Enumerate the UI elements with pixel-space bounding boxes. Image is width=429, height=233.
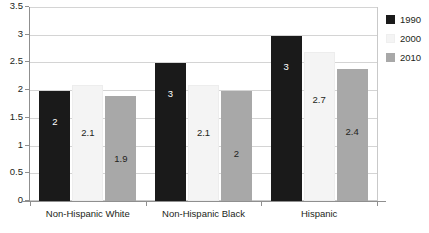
bar-2010-hispanic: 2.4 [337, 69, 368, 201]
bar-value-label: 2.7 [305, 95, 334, 105]
y-axis-tick-label: 1 [0, 140, 23, 150]
legend-label: 2010 [400, 53, 421, 63]
y-axis-tick [25, 34, 29, 35]
x-axis-label-non-hispanic-white: Non-Hispanic White [46, 209, 130, 219]
legend-label: 2000 [400, 34, 421, 44]
bar-2010-non-hispanic-white: 1.9 [105, 96, 136, 201]
bar-value-label: 2.1 [189, 128, 218, 138]
y-axis-tick-label: 0.5 [0, 168, 23, 178]
y-axis-tick [25, 6, 29, 7]
y-axis-tick [25, 61, 29, 62]
x-axis-tick [261, 201, 262, 206]
y-axis-tick-label: 0 [0, 195, 23, 205]
bar-1990-non-hispanic-black: 3 [155, 63, 186, 201]
bar-2000-non-hispanic-black: 2.1 [188, 85, 219, 201]
bar-1990-non-hispanic-white: 2 [39, 91, 70, 201]
y-axis-tick-label: 1.5 [0, 112, 23, 122]
bar-chart: 00.511.522.533.5 22.11.932.1232.72.4 Non… [0, 0, 429, 233]
y-axis-tick-label: 3 [0, 29, 23, 39]
bar-value-label: 3 [155, 89, 186, 99]
bar-value-label: 1.9 [105, 154, 136, 164]
legend-swatch-2010 [386, 53, 395, 62]
bar-value-label: 2.1 [73, 128, 102, 138]
x-axis-tick [377, 201, 378, 206]
y-axis-tick [25, 172, 29, 173]
y-axis-tick-label: 3.5 [0, 1, 23, 11]
x-axis-tick [30, 201, 31, 206]
bar-2000-hispanic: 2.7 [304, 52, 335, 201]
bar-2010-non-hispanic-black: 2 [221, 91, 252, 201]
y-axis-tick [25, 89, 29, 90]
bar-2000-non-hispanic-white: 2.1 [72, 85, 103, 201]
x-axis-line [21, 201, 386, 202]
y-axis-tick-label: 2.5 [0, 57, 23, 67]
bar-value-label: 2.4 [337, 127, 368, 137]
y-axis-tick [25, 145, 29, 146]
bar-value-label: 2 [221, 149, 252, 159]
bar-series-group: 22.11.932.1232.72.4 [30, 8, 377, 201]
legend-swatch-1990 [386, 15, 395, 24]
x-axis-tick [146, 201, 147, 206]
bar-value-label: 3 [271, 62, 302, 72]
legend-item-1990[interactable]: 1990 [386, 10, 429, 29]
legend-item-2000[interactable]: 2000 [386, 29, 429, 48]
x-axis-label-non-hispanic-black: Non-Hispanic Black [162, 209, 245, 219]
y-axis-tick [25, 117, 29, 118]
legend-label: 1990 [400, 15, 421, 25]
legend: 199020002010 [386, 10, 429, 67]
bar-value-label: 2 [39, 117, 70, 127]
bar-1990-hispanic: 3 [271, 36, 302, 201]
y-axis-tick-labels: 00.511.522.533.5 [0, 0, 23, 233]
x-axis-label-hispanic: Hispanic [301, 209, 337, 219]
y-axis-tick-label: 2 [0, 84, 23, 94]
legend-item-2010[interactable]: 2010 [386, 48, 429, 67]
legend-swatch-2000 [386, 34, 395, 43]
